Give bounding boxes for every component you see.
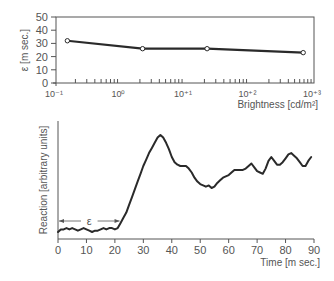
arrow-left-head — [59, 219, 64, 223]
y-tick-label: 50 — [36, 11, 48, 23]
data-point-marker — [140, 46, 144, 50]
top-chart-x-axis: 10⁻¹10⁰10⁺¹10⁺²10⁺³ — [45, 79, 321, 99]
x-tick-label: 20 — [109, 244, 121, 256]
epsilon-interval-annotation: ε — [59, 215, 120, 227]
bottom-chart-series — [58, 135, 311, 232]
x-tick-label: 50 — [194, 244, 206, 256]
y-tick-label: 10 — [36, 64, 48, 76]
x-tick-label: 10 — [80, 244, 92, 256]
top-chart-y-label: ε [m sec.] — [19, 29, 30, 71]
bottom-chart-x-axis: 0102030405060708090 — [55, 239, 320, 256]
epsilon-vs-brightness-chart: 01020304050 10⁻¹10⁰10⁺¹10⁺²10⁺³ ε [m sec… — [0, 0, 334, 110]
top-chart-border — [56, 17, 314, 83]
y-tick-label: 0 — [42, 77, 48, 89]
x-tick-label: 0 — [55, 244, 61, 256]
x-tick-label: 10⁺¹ — [174, 89, 192, 99]
y-tick-label: 20 — [36, 51, 48, 63]
x-tick-label: 60 — [223, 244, 235, 256]
x-tick-label: 30 — [137, 244, 149, 256]
x-tick-label: 40 — [166, 244, 178, 256]
top-chart-x-label: Brightness [cd/m²] — [237, 99, 318, 110]
y-tick-label: 30 — [36, 37, 48, 49]
x-tick-label: 10⁺³ — [303, 89, 321, 99]
x-tick-label: 80 — [279, 244, 291, 256]
bottom-chart-axes — [58, 121, 314, 239]
top-chart-frame — [56, 17, 314, 83]
series-line — [67, 41, 303, 53]
bottom-chart-x-label: Time [m sec.] — [260, 257, 320, 268]
x-tick-label: 10⁻¹ — [45, 89, 63, 99]
figure: 01020304050 10⁻¹10⁰10⁺¹10⁺²10⁺³ ε [m sec… — [0, 0, 334, 281]
epsilon-label: ε — [87, 215, 92, 227]
data-point-marker — [301, 50, 305, 54]
arrow-right-head — [115, 219, 120, 223]
x-tick-label: 90 — [308, 244, 320, 256]
x-tick-label: 10⁰ — [111, 89, 125, 99]
x-tick-label: 10⁺² — [238, 89, 256, 99]
data-point-marker — [65, 39, 69, 43]
data-point-marker — [205, 46, 209, 50]
x-tick-label: 70 — [251, 244, 263, 256]
top-chart-y-axis: 01020304050 — [36, 11, 56, 89]
bottom-chart-y-label: Reaction [arbitrary units] — [38, 126, 49, 235]
y-tick-label: 40 — [36, 24, 48, 36]
top-chart-series — [65, 39, 305, 55]
reaction-curve — [58, 135, 311, 232]
